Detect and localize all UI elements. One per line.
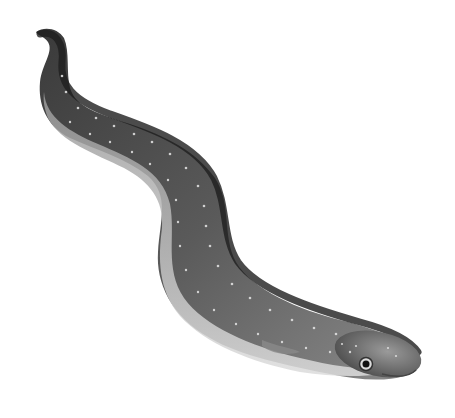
eel-body — [36, 29, 420, 380]
eel-pupil — [363, 361, 370, 368]
eel-drawing — [0, 0, 455, 418]
eel-illustration — [0, 0, 455, 418]
